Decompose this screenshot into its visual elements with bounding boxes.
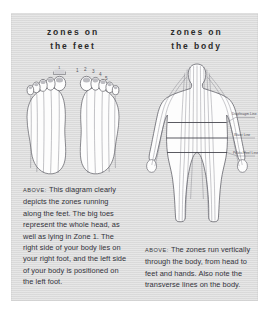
column-zones-on-the-body: zones on the body bbox=[135, 13, 258, 301]
zone-number-3: 3 bbox=[92, 69, 95, 74]
left-footprint bbox=[27, 76, 66, 174]
body-hands bbox=[146, 160, 247, 173]
label-waist-line: Waist Line bbox=[234, 133, 250, 137]
zone-number-4: 4 bbox=[99, 72, 102, 77]
page-root: zones on the feet bbox=[0, 0, 269, 314]
label-pelvic-heel-line: Pelvic/Heel Line bbox=[233, 151, 258, 155]
body-caption-lead: ABOVE: bbox=[145, 247, 171, 253]
feet-caption-text: This diagram clearly depicts the zones r… bbox=[23, 185, 126, 286]
body-figure: Diaphragm Line Waist Line Pelvic/Heel Li… bbox=[135, 59, 258, 231]
zone-1-bracket bbox=[54, 70, 66, 75]
body-heading-line-1: zones on bbox=[135, 26, 258, 40]
body-vertical-zone-lines bbox=[151, 66, 241, 221]
right-footprint bbox=[80, 76, 119, 174]
label-diaphragm-line: Diaphragm Line bbox=[232, 112, 257, 116]
feet-heading-line-1: zones on bbox=[11, 26, 135, 40]
feet-caption-lead: ABOVE: bbox=[23, 187, 49, 193]
feet-heading-line-2: the feet bbox=[11, 40, 135, 54]
zone-bracket-label: 1 bbox=[58, 66, 60, 70]
feet-diagram-svg: 1 bbox=[15, 63, 131, 179]
column-zones-on-the-feet: zones on the feet bbox=[11, 13, 135, 301]
body-heading: zones on the body bbox=[135, 26, 258, 53]
body-caption: ABOVE: The zones run vertically through … bbox=[145, 244, 253, 291]
diagram-panel: zones on the feet bbox=[11, 13, 258, 301]
feet-heading: zones on the feet bbox=[11, 26, 135, 53]
zone-number-1: 1 bbox=[76, 68, 79, 73]
feet-caption: ABOVE: This diagram clearly depicts the … bbox=[23, 184, 127, 288]
body-heading-line-2: the body bbox=[135, 40, 258, 54]
zone-number-2: 2 bbox=[84, 67, 87, 72]
body-diagram-svg bbox=[138, 59, 256, 231]
feet-figure: 1 1 2 3 4 5 bbox=[11, 63, 135, 179]
zone-number-5: 5 bbox=[105, 76, 108, 81]
